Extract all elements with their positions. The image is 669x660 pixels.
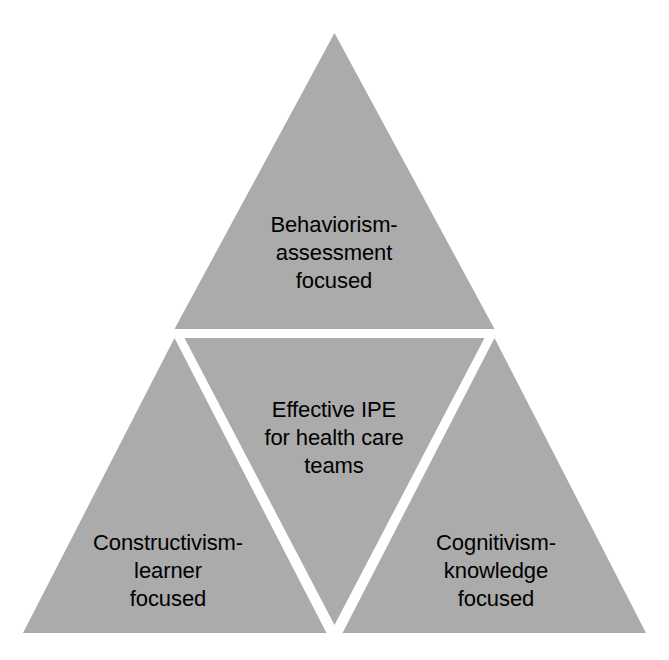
segment-bottom-left-label: Constructivism- learner focused xyxy=(93,529,243,613)
segment-bottom-right-line-2: knowledge xyxy=(436,557,556,585)
segment-top-label: Behaviorism- assessment focused xyxy=(270,211,397,295)
segment-top-line-2: assessment xyxy=(270,239,397,267)
segment-bottom-right-label: Cognitivism- knowledge focused xyxy=(436,529,556,613)
segment-top-line-3: focused xyxy=(270,267,397,295)
segment-top-line-1: Behaviorism- xyxy=(270,211,397,239)
segment-bottom-left-line-1: Constructivism- xyxy=(93,529,243,557)
segment-bottom-left-line-2: learner xyxy=(93,557,243,585)
segment-center-line-2: for health care xyxy=(264,424,403,452)
segment-bottom-right-line-3: focused xyxy=(436,585,556,613)
segment-center-line-3: teams xyxy=(264,452,403,480)
segment-bottom-left-line-3: focused xyxy=(93,585,243,613)
segment-bottom-right-line-1: Cognitivism- xyxy=(436,529,556,557)
segment-center-line-1: Effective IPE xyxy=(264,396,403,424)
segment-center-label: Effective IPE for health care teams xyxy=(264,396,403,480)
triangle-diagram: Behaviorism- assessment focused Effectiv… xyxy=(0,0,669,660)
